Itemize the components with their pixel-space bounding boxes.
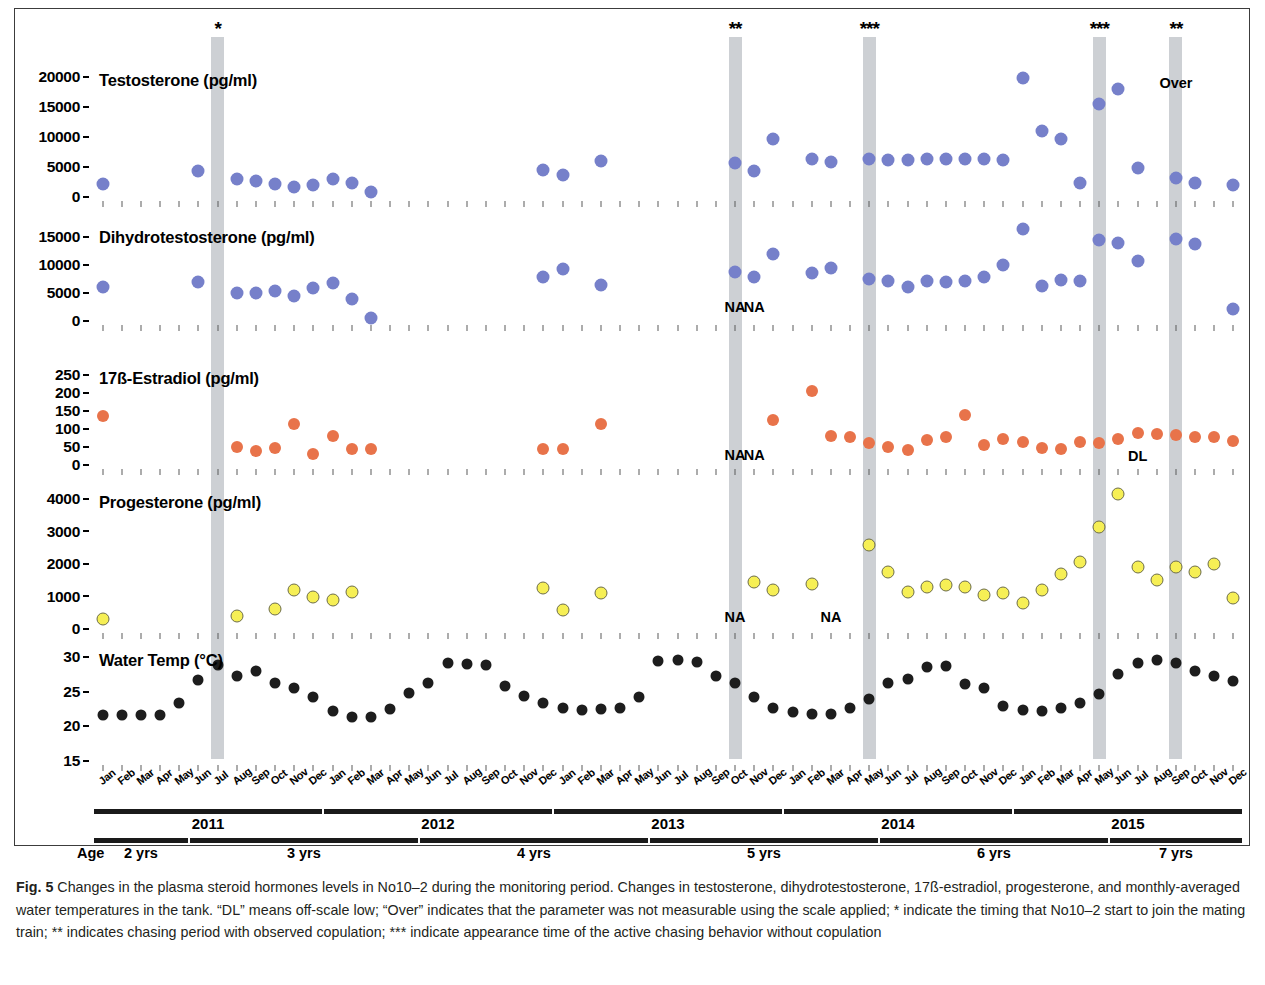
data-point-testosterone <box>269 177 282 190</box>
age-bar-2 <box>420 838 648 843</box>
data-point-water_temp <box>921 662 932 673</box>
data-point-estradiol <box>978 439 990 451</box>
data-point-water_temp <box>864 694 875 705</box>
ytick-testosterone-15000: 15000 <box>15 98 89 116</box>
data-point-dihydrotestosterone <box>1035 280 1048 293</box>
data-point-water_temp <box>825 708 836 719</box>
data-point-testosterone <box>1169 171 1182 184</box>
data-point-dihydrotestosterone <box>594 279 607 292</box>
data-point-progesterone <box>997 587 1010 600</box>
data-point-testosterone <box>537 164 550 177</box>
data-point-water_temp <box>749 692 760 703</box>
data-point-estradiol <box>863 437 875 449</box>
month-label: Jul <box>441 768 460 787</box>
ytick-dihydrotestosterone-15000: 15000 <box>15 228 89 246</box>
month-label: Jul <box>1131 768 1150 787</box>
data-point-progesterone <box>1074 556 1087 569</box>
ytick-progesterone-2000: 2000 <box>15 555 89 573</box>
event-marker-4: *** <box>1090 19 1109 38</box>
data-point-dihydrotestosterone <box>96 281 109 294</box>
data-point-estradiol <box>940 431 952 443</box>
data-point-progesterone <box>345 585 358 598</box>
data-point-water_temp <box>116 710 127 721</box>
age-bar-5 <box>1110 838 1242 843</box>
figure-label: Fig. 5 <box>16 879 53 895</box>
age-bar-3 <box>650 838 878 843</box>
event-marker-1: * <box>214 19 220 38</box>
data-point-dihydrotestosterone <box>345 292 358 305</box>
data-point-testosterone <box>748 165 761 178</box>
data-point-water_temp <box>519 690 530 701</box>
data-point-water_temp <box>672 654 683 665</box>
data-point-dihydrotestosterone <box>269 284 282 297</box>
month-label: Jul <box>671 768 690 787</box>
year-label-2012: 2012 <box>421 815 454 832</box>
event-marker-5: ** <box>1170 19 1183 38</box>
data-point-testosterone <box>249 174 262 187</box>
data-point-estradiol <box>250 445 262 457</box>
data-point-testosterone <box>901 153 914 166</box>
data-point-testosterone <box>364 186 377 199</box>
data-point-testosterone <box>1093 98 1106 111</box>
data-point-water_temp <box>423 678 434 689</box>
data-point-progesterone <box>920 580 933 593</box>
annotation-over-testosterone-0: Over <box>1159 75 1192 91</box>
data-point-water_temp <box>1151 654 1162 665</box>
data-point-water_temp <box>289 682 300 693</box>
ytick-water_temp-25: 25 <box>15 683 89 701</box>
data-point-dihydrotestosterone <box>748 270 761 283</box>
age-axis-label: Age <box>77 845 104 861</box>
ytick-estradiol-100: 100 <box>15 420 89 438</box>
year-label-2014: 2014 <box>881 815 914 832</box>
data-point-testosterone <box>959 152 972 165</box>
data-point-water_temp <box>97 710 108 721</box>
event-band-5 <box>1169 37 1182 759</box>
data-point-testosterone <box>767 133 780 146</box>
data-point-water_temp <box>270 678 281 689</box>
annotation-na-dihydrotestosterone-0: NA <box>725 299 746 315</box>
data-point-water_temp <box>768 702 779 713</box>
data-point-testosterone <box>1074 176 1087 189</box>
data-point-water_temp <box>1017 705 1028 716</box>
data-point-estradiol <box>1132 427 1144 439</box>
data-point-estradiol <box>595 418 607 430</box>
data-point-estradiol <box>307 448 319 460</box>
data-point-estradiol <box>1170 429 1182 441</box>
data-point-progesterone <box>288 584 301 597</box>
data-point-testosterone <box>192 165 205 178</box>
data-point-testosterone <box>824 156 837 169</box>
data-point-water_temp <box>1036 706 1047 717</box>
data-point-dihydrotestosterone <box>1093 233 1106 246</box>
data-point-testosterone <box>939 153 952 166</box>
year-label-2015: 2015 <box>1111 815 1144 832</box>
data-point-testosterone <box>230 173 243 186</box>
event-band-3 <box>863 37 876 759</box>
data-point-progesterone <box>269 602 282 615</box>
panel-title-testosterone: Testosterone (pg/ml) <box>99 71 257 90</box>
data-point-water_temp <box>1170 657 1181 668</box>
data-point-estradiol <box>231 441 243 453</box>
ytick-estradiol-0: 0 <box>15 456 89 474</box>
data-point-dihydrotestosterone <box>863 273 876 286</box>
tick-row-estradiol <box>93 469 1243 476</box>
data-point-dihydrotestosterone <box>230 287 243 300</box>
data-point-estradiol <box>1036 442 1048 454</box>
data-point-water_temp <box>404 688 415 699</box>
data-point-dihydrotestosterone <box>824 262 837 275</box>
data-point-water_temp <box>174 697 185 708</box>
data-point-dihydrotestosterone <box>901 280 914 293</box>
data-point-dihydrotestosterone <box>1112 236 1125 249</box>
data-point-estradiol <box>269 442 281 454</box>
annotation-na-estradiol-0: NA <box>725 447 746 463</box>
data-point-testosterone <box>805 152 818 165</box>
data-point-water_temp <box>787 707 798 718</box>
data-point-estradiol <box>1208 431 1220 443</box>
panel-title-estradiol: 17ß-Estradiol (pg/ml) <box>99 369 259 388</box>
data-point-progesterone <box>1016 597 1029 610</box>
annotation-na-progesterone-1: NA <box>820 609 841 625</box>
data-point-estradiol <box>1055 443 1067 455</box>
data-point-estradiol <box>825 430 837 442</box>
data-point-progesterone <box>1169 561 1182 574</box>
data-point-estradiol <box>365 443 377 455</box>
age-bar-1 <box>190 838 418 843</box>
